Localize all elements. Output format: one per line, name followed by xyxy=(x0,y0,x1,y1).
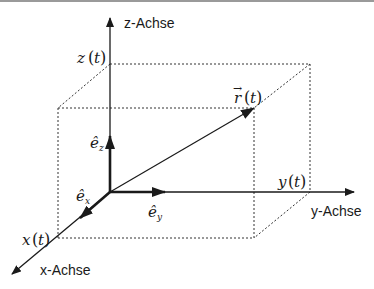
box-edge-top-right-diag xyxy=(254,64,310,108)
svg-text:z: z xyxy=(76,49,85,67)
z-axis-label: z-Achse xyxy=(124,15,175,31)
svg-text:ê: ê xyxy=(90,134,99,152)
y-component-label: y ( t ) xyxy=(277,172,306,191)
svg-text:y: y xyxy=(156,212,163,222)
unit-vector-ez-label: ê z xyxy=(90,134,104,153)
svg-text:ê: ê xyxy=(148,203,157,221)
svg-text:): ) xyxy=(100,48,106,67)
svg-text:): ) xyxy=(300,172,306,191)
svg-text:x: x xyxy=(22,231,31,249)
unit-vector-ex-label: ê x xyxy=(76,187,90,206)
svg-text:→: → xyxy=(233,82,242,95)
x-axis-label: x-Achse xyxy=(40,262,91,278)
svg-text:x: x xyxy=(85,196,90,206)
axes xyxy=(12,18,354,274)
svg-text:z: z xyxy=(98,143,104,153)
y-axis-label: y-Achse xyxy=(311,203,362,219)
z-component-label: z ( t ) xyxy=(76,48,106,67)
coordinate-diagram: z-Achse y-Achse x-Achse z ( t ) y ( t ) … xyxy=(0,0,374,289)
svg-text:): ) xyxy=(256,88,262,107)
x-component-label: x ( t ) xyxy=(22,230,50,249)
box-edge-top-left-diag xyxy=(58,64,110,108)
svg-text:y: y xyxy=(277,173,287,191)
unit-vector-ey-label: ê y xyxy=(148,203,163,222)
svg-text:): ) xyxy=(44,230,50,249)
position-vector-label: r → ( t ) xyxy=(233,82,262,107)
position-vector-r xyxy=(110,108,254,192)
svg-text:ê: ê xyxy=(76,187,85,205)
box-edge-bottom-right-diag xyxy=(254,192,310,238)
